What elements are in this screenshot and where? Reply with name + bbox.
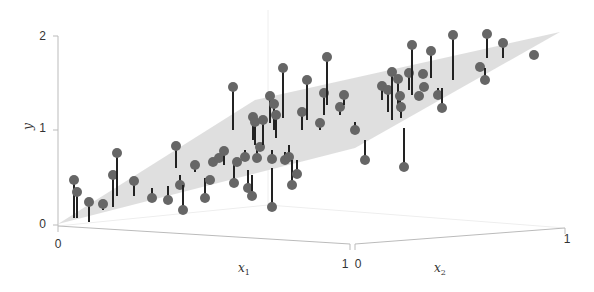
- data-point: [480, 75, 490, 85]
- data-point: [426, 46, 436, 56]
- data-point: [287, 180, 297, 190]
- x1-tick-label: 0: [55, 237, 62, 251]
- data-point: [529, 50, 539, 60]
- data-point: [399, 162, 409, 172]
- data-point: [278, 63, 288, 73]
- y-tick-label: 1: [39, 121, 46, 135]
- data-point: [322, 52, 332, 62]
- data-point: [350, 125, 360, 135]
- data-point: [98, 199, 108, 209]
- x2-tick-label: 0: [355, 257, 362, 271]
- data-point: [219, 146, 229, 156]
- y-tick-label: 2: [39, 29, 46, 43]
- data-point: [178, 205, 188, 215]
- data-point: [258, 115, 268, 125]
- x2-tick-label: 1: [564, 232, 571, 246]
- x1-axis-label: x1: [238, 261, 250, 277]
- y-tick-label: 0: [39, 217, 46, 231]
- y-axis: [53, 36, 58, 226]
- data-point: [414, 91, 424, 101]
- data-point: [437, 103, 447, 113]
- data-point: [475, 62, 485, 72]
- data-point: [228, 82, 238, 92]
- data-point: [393, 74, 403, 84]
- data-point: [271, 110, 281, 120]
- data-point: [205, 175, 215, 185]
- data-point: [407, 40, 417, 50]
- data-point: [229, 178, 239, 188]
- data-point: [69, 175, 79, 185]
- data-point: [315, 118, 325, 128]
- data-point: [297, 107, 307, 117]
- data-point: [200, 193, 210, 203]
- data-point: [252, 153, 262, 163]
- x1-axis: [58, 226, 350, 250]
- data-point: [240, 152, 250, 162]
- x2-axis: [355, 228, 565, 250]
- data-point: [339, 90, 349, 100]
- data-point: [171, 141, 181, 151]
- data-point: [396, 102, 406, 112]
- data-point: [129, 176, 139, 186]
- data-point: [482, 29, 492, 39]
- data-point: [292, 169, 302, 179]
- data-point: [84, 197, 94, 207]
- data-point: [267, 154, 277, 164]
- data-point: [112, 148, 122, 158]
- data-point: [498, 38, 508, 48]
- data-point: [395, 91, 405, 101]
- data-point: [302, 75, 312, 85]
- data-point: [72, 187, 82, 197]
- data-point: [418, 69, 428, 79]
- data-point: [190, 160, 200, 170]
- data-point: [247, 191, 257, 201]
- data-point: [163, 195, 173, 205]
- data-point: [269, 99, 279, 109]
- data-point: [267, 202, 277, 212]
- 3d-regression-chart: 2100101 y x1 x2: [0, 0, 594, 292]
- data-point: [419, 82, 429, 92]
- data-point: [147, 193, 157, 203]
- x2-axis-label: x2: [434, 261, 446, 277]
- data-point: [448, 30, 458, 40]
- y-axis-label: y: [21, 123, 35, 131]
- data-point: [360, 155, 370, 165]
- x1-tick-label: 1: [342, 257, 349, 271]
